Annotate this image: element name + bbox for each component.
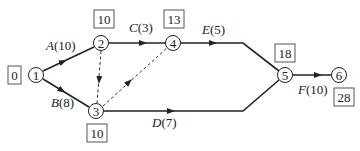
svg-text:18: 18 <box>279 46 292 61</box>
svg-text:10: 10 <box>98 12 111 27</box>
svg-text:2: 2 <box>98 36 105 51</box>
svg-text:4: 4 <box>170 36 177 51</box>
time-box-node-3: 10 <box>87 124 107 142</box>
dummy-edge-2-3 <box>97 51 101 103</box>
svg-text:13: 13 <box>168 12 181 27</box>
svg-text:28: 28 <box>338 90 351 105</box>
svg-text:5: 5 <box>282 68 289 83</box>
svg-text:3: 3 <box>93 104 100 119</box>
activity-f-label: F(10) <box>297 82 328 97</box>
node-1: 1 <box>29 68 44 83</box>
time-box-node-5: 18 <box>275 44 295 62</box>
node-5: 5 <box>278 68 293 83</box>
time-box-node-6: 28 <box>334 88 354 106</box>
activity-c-label: C(3) <box>129 20 153 35</box>
activity-b-label: B(8) <box>51 95 74 110</box>
node-2: 2 <box>94 36 109 51</box>
activity-d-edge <box>103 80 279 111</box>
activity-d-label: D(7) <box>151 115 177 130</box>
node-3: 3 <box>89 104 104 119</box>
node-6: 6 <box>332 68 347 83</box>
time-box-node-4: 13 <box>164 10 184 28</box>
time-box-node-2: 10 <box>94 10 114 28</box>
activity-network-diagram: A(10) B(8) C(3) D(7) E(5) F(10) 1 2 3 4 … <box>0 0 360 151</box>
svg-text:10: 10 <box>91 126 104 141</box>
svg-text:0: 0 <box>11 68 18 83</box>
activity-e-edge <box>180 43 279 71</box>
node-4: 4 <box>166 36 181 51</box>
dummy-edge-3-4 <box>103 48 167 106</box>
svg-text:1: 1 <box>33 68 40 83</box>
activity-a-label: A(10) <box>45 38 76 53</box>
activity-e-label: E(5) <box>201 22 225 37</box>
time-box-node-1: 0 <box>8 66 21 84</box>
svg-text:6: 6 <box>336 68 343 83</box>
